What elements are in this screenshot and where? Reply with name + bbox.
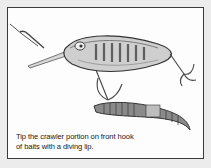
caption-line-1: Tip the crawler portion on front hook [16, 132, 201, 142]
figure-caption: Tip the crawler portion on front hook of… [16, 132, 201, 152]
lure-body [64, 36, 172, 72]
front-treble-hook [96, 70, 122, 100]
nightcrawler-worm [94, 102, 190, 130]
caption-line-2: of baits with a diving lip. [16, 142, 201, 152]
fishing-line [10, 24, 44, 48]
rear-treble-hook [170, 54, 196, 86]
figure-frame: Tip the crawler portion on front hook of… [7, 7, 204, 159]
